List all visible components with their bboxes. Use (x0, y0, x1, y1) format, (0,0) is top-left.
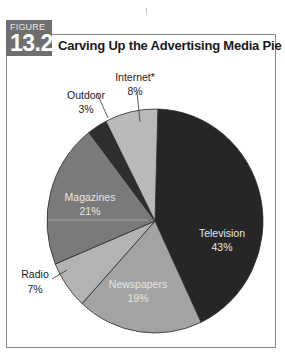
slice-label-newspapers: Newspapers (109, 278, 167, 290)
slice-label-magazines: Magazines (65, 191, 116, 203)
pie-slices (47, 109, 263, 333)
pie-chart: Television 43% Newspapers 19% Radio 7% M… (0, 0, 285, 354)
slice-value-newspapers: 19% (127, 292, 148, 304)
slice-value-radio: 7% (27, 283, 42, 295)
slice-value-outdoor: 3% (78, 103, 93, 115)
slice-value-internet: 8% (127, 85, 142, 97)
slice-value-television: 43% (211, 241, 232, 253)
slice-label-radio: Radio (21, 268, 49, 280)
slice-label-television: Television (199, 227, 245, 239)
slice-label-internet: Internet* (115, 71, 155, 83)
slice-value-magazines: 21% (79, 205, 100, 217)
slice-label-outdoor: Outdoor (67, 89, 105, 101)
